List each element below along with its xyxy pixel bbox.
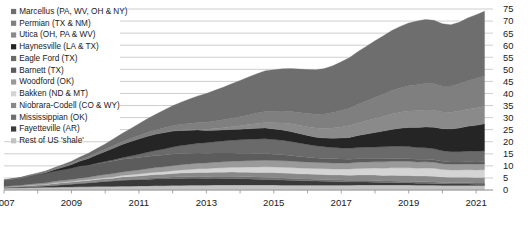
legend-label: Bakken (ND & MT) [19,89,88,98]
legend-label: Niobrara-Codell (CO & WY) [19,101,120,110]
x-tick-label-2009: 2009 [61,197,82,208]
legend-swatch [11,32,16,37]
legend-item: Fayetteville (AR) [11,124,80,133]
legend-label: Eagle Ford (TX) [19,54,78,63]
legend-swatch [11,115,16,120]
chart-canvas: 051015202530354045505560657075 200720092… [0,0,528,226]
legend-swatch [11,91,16,96]
legend-label: Permian (TX & NM) [19,19,91,28]
legend-label: Marcellus (PA, WV, OH & NY) [19,7,128,16]
legend-item: Rest of US 'shale' [11,136,84,145]
legend-label: Fayetteville (AR) [19,124,80,133]
legend-swatch [11,138,16,143]
y-tick-label-15: 15 [503,148,513,159]
y-tick-label-65: 65 [503,28,513,39]
y-tick-label-5: 5 [503,172,508,183]
y-tick-label-60: 60 [503,40,513,51]
legend-label: Woodford (OK) [19,77,74,86]
legend-swatch [11,9,16,14]
legend-item: Bakken (ND & MT) [11,89,88,98]
legend-item: Permian (TX & NM) [11,19,91,28]
y-tick-label-45: 45 [503,76,513,87]
legend-swatch [11,103,16,108]
legend-swatch [11,21,16,26]
legend-item: Utica (OH, PA & WV) [11,30,96,39]
y-tick-label-10: 10 [503,160,513,171]
y-tick-label-55: 55 [503,52,513,63]
legend-item: Marcellus (PA, WV, OH & NY) [11,7,128,16]
legend-swatch [11,126,16,131]
x-tick-label-2021: 2021 [465,197,486,208]
legend-label: Barnett (TX) [19,66,64,75]
y-axis-tick-labels: 051015202530354045505560657075 [503,3,513,195]
legend-label: Haynesville (LA & TX) [19,42,99,51]
legend-item: Barnett (TX) [11,66,64,75]
y-tick-label-20: 20 [503,136,513,147]
legend-label: Mississippian (OK) [19,113,88,122]
legend-label: Rest of US 'shale' [19,136,84,145]
y-tick-label-75: 75 [503,3,513,14]
legend-label: Utica (OH, PA & WV) [19,30,96,39]
legend-item: Niobrara-Codell (CO & WY) [11,101,120,110]
y-tick-label-70: 70 [503,15,513,26]
y-tick-label-30: 30 [503,112,513,123]
stacked-area-chart: 051015202530354045505560657075 200720092… [0,0,528,226]
y-tick-label-25: 25 [503,124,513,135]
y-tick-label-0: 0 [503,184,508,195]
legend-item: Woodford (OK) [11,77,74,86]
x-tick-label-2011: 2011 [129,197,150,208]
legend-swatch [11,68,16,73]
x-tick-label-2007: 2007 [0,197,15,208]
legend-item: Eagle Ford (TX) [11,54,78,63]
legend-swatch [11,44,16,49]
x-tick-label-2019: 2019 [398,197,419,208]
legend-swatch [11,56,16,61]
x-tick-label-2017: 2017 [331,197,352,208]
y-tick-label-35: 35 [503,100,513,111]
x-tick-label-2015: 2015 [263,197,284,208]
legend-item: Mississippian (OK) [11,113,88,122]
y-tick-label-50: 50 [503,64,513,75]
legend-item: Haynesville (LA & TX) [11,42,99,51]
x-tick-label-2013: 2013 [196,197,217,208]
legend-swatch [11,79,16,84]
y-tick-label-40: 40 [503,88,513,99]
